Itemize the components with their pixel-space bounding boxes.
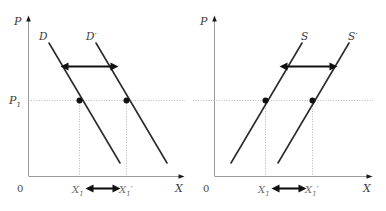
- x-axis-label: X: [362, 182, 372, 195]
- x-axis-arrowhead: [179, 174, 185, 179]
- demand-curve-d: [49, 43, 120, 163]
- lower-shift-arrow-head-left: [86, 185, 94, 193]
- curve-label-d-prime: D′: [85, 30, 97, 42]
- demand-curve-d-prime: [96, 43, 167, 163]
- equilibrium-point-2: [124, 98, 130, 104]
- y-axis-arrowhead: [212, 16, 217, 22]
- equilibrium-point-1: [263, 98, 269, 104]
- upper-shift-arrow-head-left: [280, 63, 288, 71]
- economics-shift-figure: P X 0 D D′ P1 X1 X1′: [0, 0, 386, 211]
- x-axis-label: X: [174, 182, 184, 195]
- price-tick-label: P1: [8, 94, 21, 109]
- quantity-tick-label-2: X1′: [118, 184, 134, 198]
- quantity-tick-label-2: X1′: [304, 184, 320, 198]
- demand-shift-panel: P X 0 D D′ P1 X1 X1′: [0, 0, 193, 211]
- origin-label: 0: [203, 183, 209, 194]
- curve-label-s-prime: S′: [348, 30, 358, 42]
- y-axis-label: P: [199, 15, 208, 28]
- supply-shift-panel: P X 0 S S′ X1 X1′: [193, 0, 386, 211]
- y-axis-label: P: [13, 15, 22, 28]
- curve-label-s: S: [301, 30, 308, 42]
- origin-label: 0: [17, 183, 23, 194]
- quantity-tick-label-1: X1: [257, 184, 270, 198]
- equilibrium-point-2: [310, 98, 316, 104]
- x-axis-arrowhead: [367, 174, 373, 179]
- curve-label-d: D: [38, 30, 48, 42]
- equilibrium-point-1: [77, 98, 83, 104]
- quantity-tick-label-1: X1: [71, 184, 84, 198]
- upper-shift-arrow-head-right: [111, 63, 119, 71]
- lower-shift-arrow-head-left: [272, 185, 280, 193]
- y-axis-arrowhead: [26, 16, 31, 22]
